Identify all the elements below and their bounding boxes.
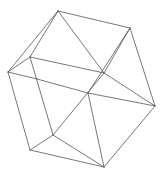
edge-BF bbox=[130, 28, 155, 106]
edge-FJ bbox=[104, 106, 155, 167]
polyhedron-edges bbox=[8, 11, 155, 167]
edge-CK bbox=[8, 72, 37, 79]
edge-HI bbox=[30, 135, 53, 150]
edge-AC bbox=[8, 11, 58, 72]
edge-IJ bbox=[30, 150, 104, 167]
edge-CD bbox=[8, 57, 30, 72]
edge-AD bbox=[30, 11, 58, 57]
edge-CI bbox=[8, 72, 30, 150]
wireframe-polyhedron bbox=[0, 0, 162, 183]
edge-HJ bbox=[53, 135, 104, 167]
edge-EH bbox=[53, 73, 104, 135]
edge-DH bbox=[30, 57, 53, 135]
edge-KG bbox=[37, 79, 88, 93]
edge-DE bbox=[30, 57, 104, 73]
edge-GJ bbox=[88, 93, 104, 167]
